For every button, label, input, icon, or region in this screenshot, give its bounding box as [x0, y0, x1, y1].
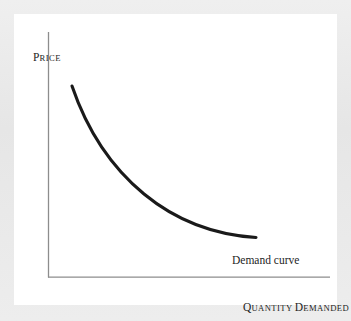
- y-axis-title: Price: [33, 47, 61, 65]
- figure-frame: Price Quantity Demanded Demand curve: [0, 0, 351, 321]
- y-axis-title-initial: P: [33, 51, 40, 63]
- demand-curve-label: Demand curve: [232, 254, 299, 266]
- x-axis-title-second-rest: emanded: [303, 303, 349, 313]
- x-axis-title-initial: Q: [243, 301, 252, 313]
- x-axis-title-second-initial: D: [295, 301, 304, 313]
- demand-curve-path: [72, 86, 256, 238]
- x-axis-title-rest: uantity: [252, 303, 295, 313]
- y-axis-title-rest: rice: [40, 53, 61, 63]
- chart-panel: Price Quantity Demanded Demand curve: [14, 14, 337, 305]
- x-axis-title: Quantity Demanded: [243, 297, 349, 315]
